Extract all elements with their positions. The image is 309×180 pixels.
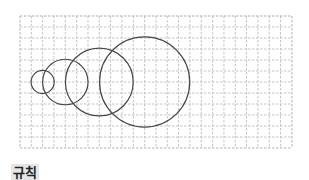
dashed-grid (20, 16, 292, 148)
circle-pattern-diagram (0, 0, 309, 160)
rule-heading-label: 규칙 (11, 164, 39, 180)
